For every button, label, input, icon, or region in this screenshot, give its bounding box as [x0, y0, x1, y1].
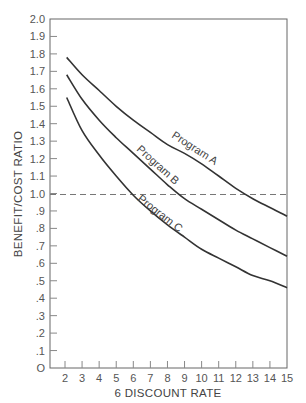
x-tick-label: 5	[113, 372, 119, 384]
plot-frame	[50, 19, 287, 368]
x-tick-label: 12	[230, 372, 242, 384]
x-tick-label: 3	[79, 372, 85, 384]
x-tick-label: 9	[181, 372, 187, 384]
x-tick-label: 7	[147, 372, 153, 384]
y-tick-label: 1.9	[30, 30, 45, 42]
x-tick-label: 13	[247, 372, 259, 384]
y-tick-label: 1.2	[30, 153, 45, 165]
y-tick-label: 1.3	[30, 135, 45, 147]
y-tick-label: .6	[36, 257, 45, 269]
program-c-label: Program C	[136, 192, 185, 234]
program-a-label: Program A	[170, 129, 221, 168]
y-axis-title: BENEFIT/COST RATIO	[12, 131, 24, 257]
y-tick-label: 1.6	[30, 83, 45, 95]
x-tick-label: 8	[164, 372, 170, 384]
x-tick-label: 4	[96, 372, 102, 384]
y-tick-label: 1.5	[30, 100, 45, 112]
y-tick-label: .1	[36, 345, 45, 357]
y-tick-label: .5	[36, 275, 45, 287]
y-tick-label: .2	[36, 327, 45, 339]
y-tick-label: 1.8	[30, 48, 45, 60]
x-tick-label: 2	[62, 372, 68, 384]
x-axis-title: 6 DISCOUNT RATE	[115, 387, 222, 399]
x-tick-label: 11	[213, 372, 224, 384]
x-axis-ticks: 23456789101112131415	[62, 361, 293, 384]
y-tick-label: .7	[36, 240, 45, 252]
y-tick-label: .9	[36, 205, 45, 217]
x-tick-label: 6	[130, 372, 136, 384]
y-tick-label: 2.0	[30, 13, 45, 25]
y-axis-ticks: O.1.2.3.4.5.6.7.8.91.01.11.21.31.41.51.6…	[30, 13, 57, 374]
x-tick-label: 15	[281, 372, 293, 384]
y-tick-label: 1.4	[30, 118, 45, 130]
x-tick-label: 10	[195, 372, 207, 384]
y-tick-label: .8	[36, 222, 45, 234]
benefit-cost-chart: O.1.2.3.4.5.6.7.8.91.01.11.21.31.41.51.6…	[0, 0, 306, 403]
y-tick-label: 1.1	[30, 170, 45, 182]
y-tick-label: 1.0	[30, 188, 45, 200]
y-tick-label: O	[36, 362, 45, 374]
plot-border	[50, 19, 287, 368]
x-tick-label: 14	[264, 372, 276, 384]
y-tick-label: 1.7	[30, 65, 45, 77]
y-tick-label: .4	[36, 292, 45, 304]
y-tick-label: .3	[36, 310, 45, 322]
